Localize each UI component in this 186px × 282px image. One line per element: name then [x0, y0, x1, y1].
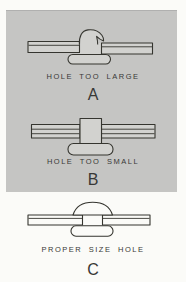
caption-proper-size-hole: PROPER SIZE HOLE	[0, 246, 186, 254]
bucked-head-b	[68, 144, 113, 156]
plate-right-a	[102, 43, 153, 54]
bucked-head-a	[68, 55, 111, 65]
caption-hole-too-large: HOLE TOO LARGE	[0, 73, 186, 81]
rivet-hole-figure: HOLE TOO LARGE A HOLE TOO SMALL B PROPER…	[0, 0, 186, 282]
label-b: B	[0, 172, 186, 188]
rivet-head-curled-over	[79, 30, 103, 45]
rivet-dome-head-c	[73, 202, 113, 215]
plate-left-b	[32, 125, 81, 139]
diagram-hole-too-small	[0, 112, 186, 160]
diagram-proper-size-hole	[0, 196, 186, 242]
bucked-head-c	[71, 226, 113, 236]
label-c: C	[0, 262, 186, 278]
caption-hole-too-small: HOLE TOO SMALL	[0, 158, 186, 166]
rivet-head-undriven-tall	[80, 119, 102, 145]
rivet-shank-c	[83, 214, 103, 226]
plate-left-a	[28, 42, 80, 53]
plate-left-c	[28, 215, 83, 225]
diagram-hole-too-large	[0, 28, 186, 68]
label-a: A	[0, 87, 186, 103]
plate-right-b	[102, 125, 156, 139]
plate-right-c	[103, 215, 151, 225]
